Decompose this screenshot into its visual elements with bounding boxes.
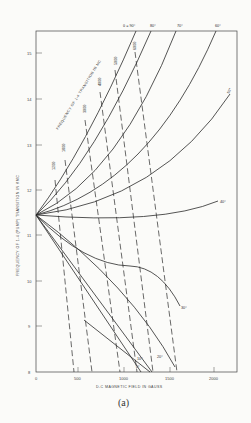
svg-text:3000: 3000 [83, 105, 87, 113]
svg-text:10°: 10° [137, 357, 143, 361]
svg-text:11: 11 [27, 233, 32, 238]
curve-freq-6000 [135, 52, 177, 372]
y-axis [36, 53, 42, 326]
svg-text:9: 9 [28, 324, 31, 329]
svg-text:0: 0 [35, 376, 38, 381]
svg-text:1800: 1800 [62, 144, 66, 152]
svg-text:1200: 1200 [52, 162, 56, 170]
curve-theta-0 [36, 215, 141, 372]
svg-text:4000: 4000 [98, 78, 102, 86]
svg-text:θ = 90°: θ = 90° [123, 24, 136, 28]
svg-text:1500: 1500 [165, 376, 175, 381]
svg-text:20°: 20° [157, 355, 163, 359]
svg-text:1000: 1000 [119, 376, 129, 381]
x-tick-labels: 0 500 1000 1500 2000 [35, 376, 219, 381]
x-axis-title: D-C MAGNETIC FIELD IN GAUSS [96, 385, 163, 389]
svg-text:500: 500 [74, 376, 81, 381]
curve-theta-30 [36, 215, 180, 306]
svg-text:15: 15 [27, 51, 32, 56]
svg-text:12: 12 [27, 188, 32, 193]
y-tick-labels: 15 14 13 12 11 10 9 8 [27, 51, 32, 375]
svg-text:13: 13 [27, 143, 32, 148]
curve-freq-4000 [100, 92, 137, 372]
theta-curves [36, 31, 230, 372]
svg-text:10: 10 [27, 279, 32, 284]
y-axis-title: FREQUENCY OF 1-4 (PUMP) TRANSITION IN KM… [16, 175, 20, 276]
curve-theta-90 [36, 31, 136, 215]
diagonal-annotation: FREQUENCY OF 1-4 TRANSITION IN MC [55, 59, 102, 130]
svg-text:50°: 50° [226, 87, 233, 94]
svg-text:80°: 80° [150, 24, 156, 28]
frequency-labels: 1200 1800 3000 4000 5000 6000 [52, 42, 137, 170]
svg-text:0°: 0° [136, 365, 140, 369]
curve-theta-80 [36, 31, 151, 215]
svg-text:30°: 30° [181, 306, 187, 310]
curve-theta-20 [36, 215, 175, 367]
svg-text:6000: 6000 [133, 42, 137, 50]
svg-text:2000: 2000 [209, 376, 219, 381]
x-axis [78, 367, 214, 372]
chart-canvas: 15 14 13 12 11 10 9 8 0 500 1000 1500 20… [0, 0, 251, 423]
plot-frame [36, 31, 237, 372]
curve-theta-extra [84, 320, 150, 372]
curve-freq-5000 [115, 70, 153, 372]
theta-labels: θ = 90° 80° 70° 60° 50° 40° 30° 20° 10° … [123, 24, 233, 369]
curve-theta-40 [36, 201, 218, 218]
curve-freq-1800 [65, 160, 92, 372]
figure-caption: (a) [118, 397, 129, 409]
svg-text:8: 8 [28, 370, 31, 375]
svg-text:40°: 40° [220, 200, 226, 204]
svg-text:5000: 5000 [114, 57, 118, 65]
svg-text:14: 14 [27, 97, 32, 102]
curve-theta-70 [36, 31, 176, 215]
curve-theta-10 [36, 215, 152, 372]
svg-text:60°: 60° [215, 24, 221, 28]
svg-text:70°: 70° [177, 24, 183, 28]
